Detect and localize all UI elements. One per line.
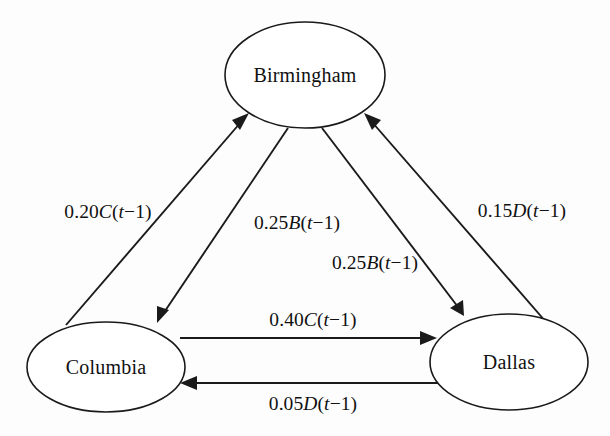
edge-label-columbia-to-dallas: 0.40C(t−1) [269,309,356,331]
edge-line [322,128,458,307]
network-diagram: Birmingham Columbia Dallas 0.20C(t−1) 0.… [0,0,610,436]
edge-line [66,122,241,325]
edge-label-birmingham-to-columbia: 0.25B(t−1) [254,212,340,234]
edge-label-dallas-to-birmingham: 0.15D(t−1) [478,200,566,222]
edge-columbia-to-dallas [180,331,437,345]
arrow-head-birmingham-right [364,113,381,130]
edge-birmingham-to-dallas [322,128,464,316]
edge-line [372,122,546,322]
node-label-dallas: Dallas [483,351,535,374]
node-label-birmingham: Birmingham [253,64,356,87]
edge-label-columbia-to-birmingham: 0.20C(t−1) [64,201,151,223]
edge-label-dallas-to-columbia: 0.05D(t−1) [269,393,357,415]
edge-dallas-to-columbia [180,376,455,390]
node-label-columbia: Columbia [66,356,147,379]
arrow-head-dallas-left [420,331,437,345]
arrow-head-birmingham-left [232,113,249,130]
arrow-head-dallas-top [450,300,464,316]
edge-label-birmingham-to-dallas: 0.25B(t−1) [332,252,418,274]
